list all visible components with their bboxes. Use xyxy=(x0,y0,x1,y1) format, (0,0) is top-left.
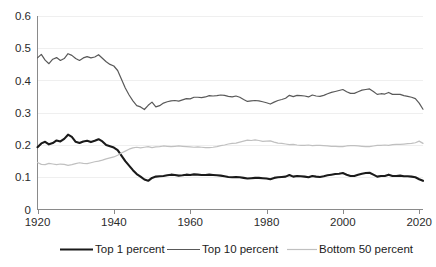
x-tick-label: 2000 xyxy=(330,216,356,228)
series-line-top-1-percent xyxy=(38,135,424,181)
x-axis-tick-labels: 192019401960198020002020 xyxy=(25,216,432,228)
x-tick-label: 1980 xyxy=(254,216,280,228)
x-axis-tick-marks xyxy=(39,210,420,214)
x-tick-label: 1920 xyxy=(25,216,51,228)
y-tick-label: 0 xyxy=(25,204,31,216)
chart-canvas: 00.10.20.30.40.50.6 19201940196019802000… xyxy=(0,0,436,267)
y-tick-label: 0.4 xyxy=(15,75,32,87)
chart-legend: Top 1 percentTop 10 percentBottom 50 per… xyxy=(60,243,414,255)
y-tick-label: 0.5 xyxy=(15,42,31,54)
y-tick-label: 0.1 xyxy=(15,171,31,183)
y-axis-tick-labels: 00.10.20.30.40.50.6 xyxy=(15,10,32,216)
x-tick-label: 1960 xyxy=(177,216,203,228)
y-tick-label: 0.6 xyxy=(15,10,31,22)
data-series-group xyxy=(38,54,424,181)
x-tick-label: 1940 xyxy=(101,216,127,228)
income-share-line-chart: 00.10.20.30.40.50.6 19201940196019802000… xyxy=(0,0,436,267)
legend-label-top-1-percent: Top 1 percent xyxy=(95,243,165,255)
x-tick-label: 2020 xyxy=(406,216,432,228)
legend-label-top-10-percent: Top 10 percent xyxy=(202,243,279,255)
series-line-bottom-50-percent xyxy=(38,140,424,165)
series-line-top-10-percent xyxy=(38,54,424,110)
y-tick-label: 0.2 xyxy=(15,139,31,151)
y-tick-label: 0.3 xyxy=(15,107,31,119)
legend-label-bottom-50-percent: Bottom 50 percent xyxy=(319,243,414,255)
